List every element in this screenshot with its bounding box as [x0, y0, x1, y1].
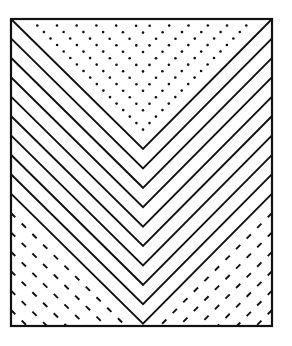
- dot: [115, 83, 118, 86]
- dot: [174, 57, 177, 60]
- dot: [135, 122, 138, 125]
- dot: [148, 44, 151, 47]
- dot: [174, 76, 177, 79]
- dot: [174, 96, 177, 99]
- dot: [148, 25, 151, 28]
- dot: [102, 89, 105, 92]
- dot: [115, 44, 118, 47]
- dot: [168, 44, 171, 47]
- dot: [181, 70, 184, 73]
- dot: [232, 37, 235, 40]
- dot: [226, 44, 229, 47]
- dot: [213, 57, 216, 60]
- dot: [155, 57, 158, 60]
- dot: [193, 57, 196, 60]
- dot: [109, 96, 112, 99]
- dot: [102, 50, 105, 53]
- dot: [69, 37, 72, 40]
- dot: [142, 70, 145, 73]
- dot: [161, 89, 164, 92]
- dot: [168, 24, 171, 27]
- dot: [128, 57, 131, 60]
- dot: [161, 70, 164, 73]
- dot: [226, 24, 229, 27]
- dot: [56, 24, 59, 27]
- dot: [142, 90, 145, 93]
- dot: [148, 102, 151, 105]
- dot: [135, 83, 138, 86]
- dot: [200, 31, 203, 34]
- dot: [161, 109, 164, 112]
- dot: [180, 89, 183, 92]
- dot: [109, 76, 112, 79]
- dot: [155, 115, 158, 118]
- dot: [213, 37, 216, 40]
- dot: [128, 38, 131, 41]
- dot: [193, 76, 196, 79]
- dot: [82, 50, 85, 53]
- dot: [200, 50, 203, 53]
- dot: [89, 37, 92, 40]
- dot: [62, 50, 65, 53]
- dot: [194, 37, 197, 40]
- dot: [142, 31, 145, 34]
- dot: [181, 50, 184, 53]
- dot: [128, 76, 131, 79]
- dot: [135, 44, 138, 47]
- dot: [161, 31, 164, 34]
- dot: [115, 102, 118, 105]
- dot: [148, 83, 151, 86]
- dot: [95, 24, 98, 27]
- dot: [219, 50, 222, 53]
- dot: [135, 25, 138, 28]
- dot: [96, 83, 99, 86]
- dot: [75, 24, 78, 27]
- dot: [219, 31, 222, 34]
- dot: [155, 96, 158, 99]
- dot: [109, 57, 112, 60]
- dot: [95, 44, 98, 47]
- dot: [206, 63, 209, 66]
- dot: [108, 37, 111, 40]
- dot: [122, 70, 125, 73]
- dot: [56, 44, 59, 47]
- dot: [239, 31, 242, 34]
- dot: [89, 57, 92, 60]
- dot: [89, 76, 92, 79]
- dot: [155, 38, 158, 41]
- dot: [115, 24, 118, 27]
- dot: [76, 63, 79, 66]
- dot: [135, 102, 138, 105]
- dot: [142, 51, 145, 54]
- dot: [206, 44, 209, 47]
- dot: [76, 44, 79, 47]
- dot: [95, 63, 98, 66]
- dot: [36, 24, 39, 27]
- dot: [82, 70, 85, 73]
- dot: [82, 31, 85, 34]
- dot: [115, 63, 118, 66]
- dot: [122, 51, 125, 54]
- dot: [142, 128, 145, 131]
- dot: [49, 37, 52, 40]
- dot: [187, 44, 190, 47]
- dot: [187, 63, 190, 66]
- dot: [155, 76, 158, 79]
- dot: [187, 24, 190, 27]
- dot: [102, 31, 105, 34]
- dot: [69, 57, 72, 60]
- dot: [62, 31, 65, 34]
- dot: [129, 115, 132, 118]
- dot: [200, 70, 203, 73]
- dot: [168, 63, 171, 66]
- dot: [129, 96, 132, 99]
- dot: [174, 37, 177, 40]
- dot: [207, 24, 210, 27]
- dot: [122, 109, 125, 112]
- dot: [168, 102, 171, 105]
- chevron-pattern-diagram: [0, 0, 292, 346]
- dot: [161, 51, 164, 54]
- dot: [43, 31, 46, 34]
- dot: [135, 64, 138, 67]
- dot: [122, 89, 125, 92]
